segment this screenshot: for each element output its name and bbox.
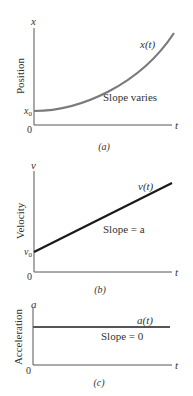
panel-c-ylabel: Acceleration <box>12 308 24 365</box>
panel-c-curve-label: a(t) <box>137 314 153 327</box>
panel-b-ylabel: Velocity <box>14 202 26 239</box>
panel-c-origin: 0 <box>26 365 31 376</box>
panel-c-y-symbol: a <box>31 298 37 310</box>
panel-b-x-symbol: t <box>175 266 179 278</box>
panel-b-annotation: Slope = a <box>103 223 145 235</box>
panel-a-annotation: Slope varies <box>103 91 157 103</box>
panel-b-velocity: v t 0 v0 Velocity v(t) Slope = a (b) <box>14 159 179 296</box>
panel-a-curve-label: x(t) <box>139 38 156 51</box>
panel-b-velocity-line <box>34 183 172 252</box>
panel-c-annotation: Slope = 0 <box>101 330 144 342</box>
panel-c-caption: (c) <box>93 377 105 389</box>
panel-a-ylabel: Position <box>14 57 26 94</box>
panel-b-y-symbol: v <box>31 159 36 171</box>
panel-a-y-symbol: x <box>30 15 36 27</box>
panel-c-x-symbol: t <box>175 359 179 371</box>
panel-a-intercept: x0 <box>23 105 32 118</box>
kinematics-diagram: x t 0 x0 Position x(t) Slope varies (a) … <box>0 0 193 396</box>
panel-a-caption: (a) <box>98 141 110 153</box>
panel-b-curve-label: v(t) <box>138 180 154 193</box>
panel-a-origin: 0 <box>27 124 32 135</box>
panel-b-caption: (b) <box>94 284 106 296</box>
panel-c-acceleration: a t 0 Acceleration a(t) Slope = 0 (c) <box>12 298 179 389</box>
panel-b-origin: 0 <box>27 271 32 282</box>
panel-a-position: x t 0 x0 Position x(t) Slope varies (a) <box>14 15 179 153</box>
panel-a-x-symbol: t <box>175 119 179 131</box>
panel-b-intercept: v0 <box>24 246 32 259</box>
